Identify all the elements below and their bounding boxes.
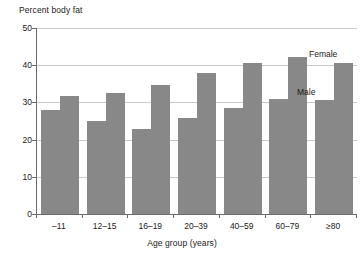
x-tick-mark <box>127 214 128 218</box>
bar-group <box>224 28 262 214</box>
bar-male <box>178 118 197 214</box>
x-tick-label: 16–19 <box>138 222 162 231</box>
x-tick-label: 60–79 <box>276 222 300 231</box>
bar-male <box>315 100 334 214</box>
bar-male <box>41 110 60 214</box>
x-tick-mark <box>219 214 220 218</box>
bar-female <box>334 63 353 214</box>
x-tick-mark <box>356 214 357 218</box>
y-tick-label: 10 <box>2 173 32 182</box>
bar-female <box>151 85 170 214</box>
bar-male <box>224 108 243 214</box>
x-axis-title: Age group (years) <box>0 238 364 248</box>
x-tick-label: –11 <box>52 222 66 231</box>
x-tick-label: 40–59 <box>230 222 254 231</box>
y-tick-label: 50 <box>2 24 32 33</box>
x-tick-mark <box>310 214 311 218</box>
bar-male <box>269 99 288 214</box>
series-annotation-male: Male <box>297 88 315 97</box>
bar-male <box>132 129 151 214</box>
y-tick-label: 30 <box>2 98 32 107</box>
bar-group <box>41 28 79 214</box>
y-tick-label: 0 <box>2 210 32 219</box>
x-tick-mark <box>173 214 174 218</box>
bar-group <box>87 28 125 214</box>
x-tick-label: 12–15 <box>93 222 117 231</box>
x-tick-label: 20–39 <box>184 222 208 231</box>
x-tick-mark <box>265 214 266 218</box>
bar-female <box>60 96 79 214</box>
y-tick-label: 20 <box>2 136 32 145</box>
chart-title: Percent body fat <box>19 5 83 15</box>
y-axis: 01020304050 <box>0 28 32 214</box>
bar-male <box>87 121 106 214</box>
bar-group <box>132 28 170 214</box>
bar-group <box>178 28 216 214</box>
bar-female <box>197 73 216 214</box>
bar-female <box>243 63 262 214</box>
x-tick-mark <box>36 214 37 218</box>
x-tick-label: ≥80 <box>326 222 340 231</box>
chart-figure: Percent body fat 01020304050 Age group (… <box>0 0 364 261</box>
y-tick-label: 40 <box>2 61 32 70</box>
x-tick-mark <box>82 214 83 218</box>
bar-female <box>288 57 307 214</box>
bar-female <box>106 93 125 214</box>
series-annotation-female: Female <box>309 50 337 59</box>
bar-group <box>269 28 307 214</box>
